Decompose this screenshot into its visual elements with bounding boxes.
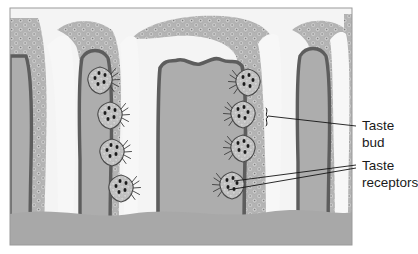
lamina-propria — [10, 210, 352, 245]
taste-receptors-label-line2: receptors — [362, 175, 418, 190]
figure-container: Taste bud Taste receptors — [0, 0, 418, 254]
taste-bud-label-line2: bud — [362, 135, 385, 150]
taste-bud-label-line1: Taste — [362, 118, 394, 133]
taste-receptors-label-line1: Taste — [362, 158, 394, 173]
papilla-diagram: Taste bud Taste receptors — [0, 0, 418, 254]
illustration-panel — [10, 8, 352, 245]
